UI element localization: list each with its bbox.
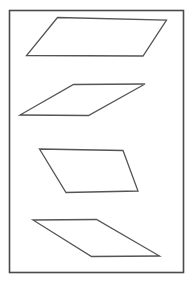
figure-canvas [0,0,192,285]
parallelogram-2 [20,84,145,116]
parallelogram-diagram [0,0,192,285]
parallelogram-1 [27,18,167,57]
parallelogram-4 [33,220,160,257]
outer-frame-border [10,11,184,273]
parallelogram-3 [40,149,139,193]
